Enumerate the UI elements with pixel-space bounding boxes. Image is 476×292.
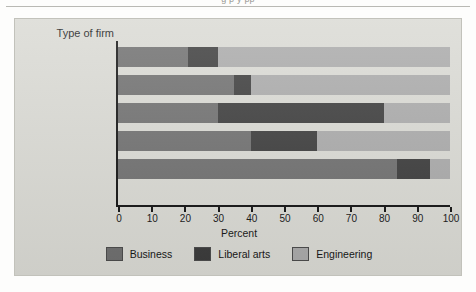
bar-segment — [234, 75, 251, 95]
bar-segment — [317, 131, 450, 151]
x-axis-tick-label: 40 — [246, 213, 257, 224]
legend-label: Liberal arts — [218, 248, 270, 260]
x-axis-tick — [317, 207, 319, 212]
legend-swatch — [194, 247, 211, 261]
bar-segment — [251, 131, 317, 151]
x-axis-tick — [350, 207, 352, 212]
x-axis-tick-label: 50 — [279, 213, 290, 224]
cut-off-header-text: g p y pp — [6, 0, 470, 5]
bar-segment — [188, 47, 218, 67]
x-axis-tick — [218, 207, 220, 212]
plot-area: Type of firm ManufacturingTransportation… — [15, 19, 463, 277]
chart-legend: BusinessLiberal artsEngineering — [15, 247, 463, 261]
x-axis-tick — [184, 207, 186, 212]
bar-segment — [218, 103, 384, 123]
legend-item: Liberal arts — [194, 247, 270, 261]
bar-segment — [251, 75, 450, 95]
x-axis-line — [116, 205, 450, 207]
x-axis-tick — [384, 207, 386, 212]
figure-page: g p y pp Type of firm ManufacturingTrans… — [0, 0, 476, 292]
x-axis-tick-label: 30 — [213, 213, 224, 224]
bar-segment — [397, 159, 430, 179]
bar-segment — [118, 103, 218, 123]
x-axis-tick — [151, 207, 153, 212]
x-axis-tick-label: 90 — [412, 213, 423, 224]
legend-swatch — [106, 247, 123, 261]
legend-label: Engineering — [316, 248, 372, 260]
x-axis-tick-label: 10 — [147, 213, 158, 224]
bar-segment — [118, 47, 188, 67]
legend-item: Business — [106, 247, 173, 261]
x-axis-title: Percent — [15, 227, 463, 239]
x-axis-tick-label: 70 — [346, 213, 357, 224]
x-axis-tick-label: 80 — [379, 213, 390, 224]
x-axis-tick-label: 60 — [313, 213, 324, 224]
x-axis-tick — [251, 207, 253, 212]
bar-segment — [118, 159, 397, 179]
x-axis-tick — [118, 207, 120, 212]
x-axis-tick-label: 0 — [116, 213, 122, 224]
header-divider-rule — [6, 6, 470, 7]
bar-segment — [118, 131, 251, 151]
legend-item: Engineering — [292, 247, 372, 261]
category-axis-title: Type of firm — [57, 27, 114, 39]
x-axis-tick — [284, 207, 286, 212]
x-axis-tick — [450, 207, 452, 212]
x-axis-tick — [417, 207, 419, 212]
chart-panel: Type of firm ManufacturingTransportation… — [14, 18, 462, 276]
x-axis-tick-label: 20 — [180, 213, 191, 224]
bar-segment — [218, 47, 450, 67]
bar-segment — [430, 159, 450, 179]
x-axis-tick-label: 100 — [443, 213, 460, 224]
legend-label: Business — [130, 248, 173, 260]
legend-swatch — [292, 247, 309, 261]
bar-segment — [384, 103, 450, 123]
bar-segment — [118, 75, 234, 95]
